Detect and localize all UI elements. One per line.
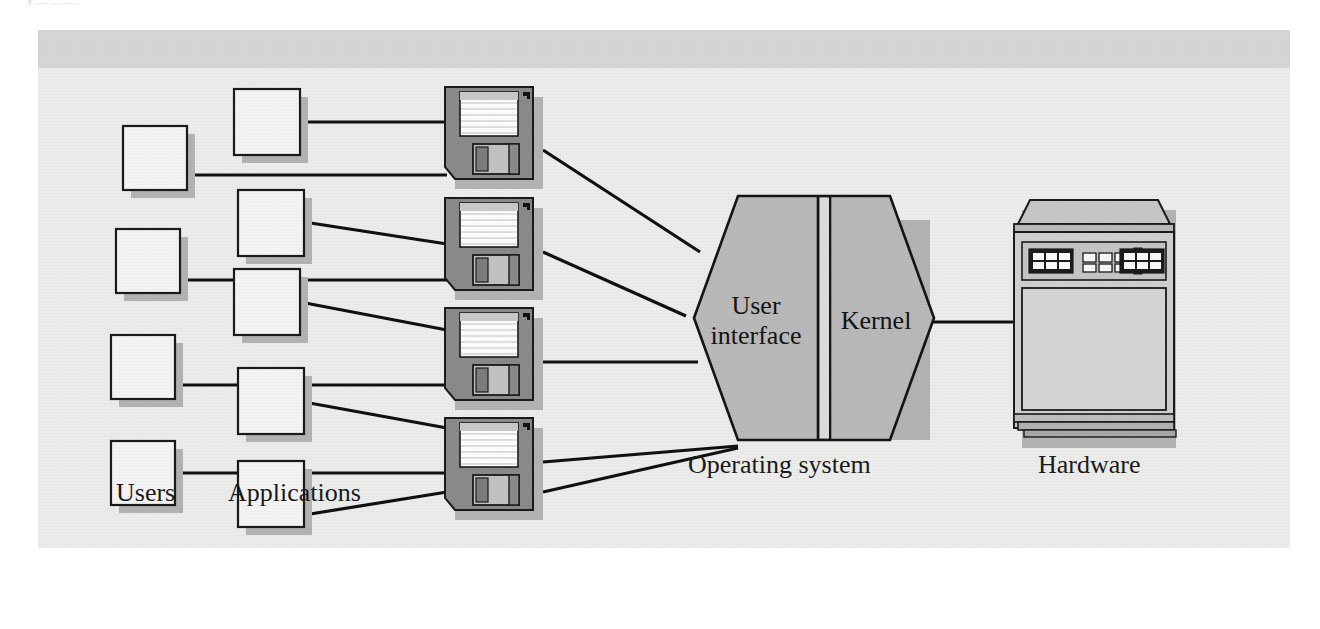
users-label: Users [116, 478, 175, 508]
floppy-disk-3 [445, 308, 543, 410]
floppy-disk-1 [445, 87, 543, 189]
applications-group [234, 89, 312, 535]
hexagon-kernel-label: Kernel [841, 306, 912, 335]
user-box-2 [116, 229, 188, 301]
hardware-mainframe [1014, 200, 1176, 448]
figure-page: y ..... .... ..... [0, 0, 1320, 629]
connector-app3-floppy3 [300, 302, 447, 330]
application-box-2 [238, 190, 312, 264]
application-box-4 [238, 368, 312, 442]
operating-system-label: Operating system [688, 450, 871, 480]
connector-floppy1-os [543, 150, 700, 252]
floppy-disks-group [445, 87, 543, 520]
connector-app4-floppy4 [304, 402, 447, 428]
application-box-3 [234, 269, 308, 343]
operating-system-hexagon: User interface Kernel [694, 196, 934, 440]
user-box-3 [111, 335, 183, 407]
user-box-1 [123, 126, 195, 198]
clipped-caption-text: y ..... .... ..... [28, 0, 78, 6]
users-group [111, 126, 195, 513]
hexagon-user-interface-line1: User [731, 291, 780, 320]
connector-app2-floppy2 [304, 222, 447, 244]
application-box-1 [234, 89, 308, 163]
hexagon-user-interface-line2: interface [711, 321, 802, 350]
hardware-label: Hardware [1038, 450, 1141, 480]
applications-label: Applications [228, 478, 361, 508]
connector-floppy2-os [543, 252, 686, 316]
floppy-disk-4 [445, 418, 543, 520]
floppy-disk-2 [445, 198, 543, 300]
figure-plate: User interface Kernel Users Applications… [38, 30, 1290, 548]
